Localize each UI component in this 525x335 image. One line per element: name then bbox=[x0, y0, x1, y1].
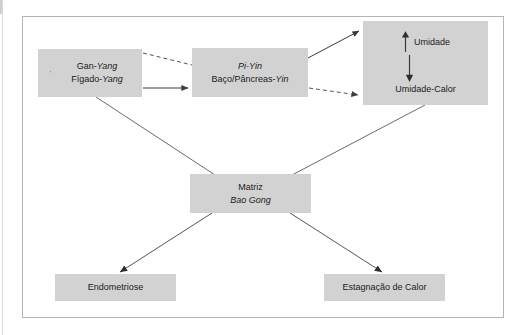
node-umidade[interactable]: Umidade Umidade-Calor bbox=[363, 21, 488, 105]
node-pi-yin-line1: Pi-Yin bbox=[238, 60, 262, 73]
node-matriz[interactable]: Matriz Bao Gong bbox=[190, 174, 311, 213]
node-umidade-label: Umidade bbox=[414, 36, 450, 49]
increase-arrow-icon bbox=[401, 30, 410, 54]
diagram-canvas: Gan-Yang Fígado-Yang Pi-Yin Baço/Pâncrea… bbox=[0, 0, 525, 335]
node-umidade-top-row: Umidade bbox=[401, 30, 450, 54]
scan-edge-artifact-top bbox=[0, 0, 2, 14]
node-matriz-line1: Matriz bbox=[238, 181, 263, 194]
node-matriz-line2: Bao Gong bbox=[230, 194, 271, 207]
node-pi-yin[interactable]: Pi-Yin Baço/Pâncreas-Yin bbox=[192, 48, 308, 97]
node-gan-yang-line2: Fígado-Yang bbox=[71, 73, 122, 86]
node-estagnacao-label: Estagnação de Calor bbox=[342, 281, 426, 294]
node-pi-yin-line2: Baço/Pâncreas-Yin bbox=[212, 73, 289, 86]
node-umidade-calor-label: Umidade-Calor bbox=[395, 83, 456, 96]
scan-edge-artifact bbox=[2, 0, 3, 335]
node-endometriose-label: Endometriose bbox=[88, 281, 144, 294]
node-gan-yang-line1: Gan-Yang bbox=[77, 60, 117, 73]
down-arrow-icon bbox=[405, 54, 414, 83]
node-estagnacao-de-calor[interactable]: Estagnação de Calor bbox=[324, 274, 445, 301]
increase-arrow-icon bbox=[50, 60, 51, 84]
node-endometriose[interactable]: Endometriose bbox=[55, 274, 176, 301]
node-gan-yang[interactable]: Gan-Yang Fígado-Yang bbox=[38, 49, 142, 97]
